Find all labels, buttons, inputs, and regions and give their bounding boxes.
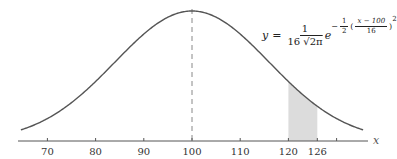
coef-numerator: 1 [300,24,310,36]
x-tick-label: 90 [137,146,150,157]
x-tick-label: 110 [231,146,250,157]
exp-z: x − 100 16 [355,18,387,35]
x-axis-label: x [373,134,380,147]
sqrt-content: 2π [310,36,323,47]
x-tick-label: 120 [279,146,298,157]
shaded-region-120-126 [288,81,317,141]
x-tick-label: 80 [89,146,102,157]
x-tick-label: 70 [41,146,54,157]
coef-den-16: 16 [287,36,300,47]
x-axis-tick-labels: 708090100110120126 [41,146,327,157]
exp-close-paren: ) [389,22,392,31]
formula-equals: = [272,29,281,42]
x-tick-label: 100 [182,146,201,157]
exp-open-paren: ( [350,22,353,31]
formula-exponent: − 1 2 ( x − 100 16 ) 2 [331,18,397,35]
half-num: 1 [340,18,348,27]
exp-half: 1 2 [340,18,348,35]
z-denominator: 16 [367,27,376,35]
coef-denominator: 16 √2π [287,36,322,47]
formula-y: y [262,29,268,42]
formula-coefficient: 1 16 √2π [287,24,322,47]
exp-power: 2 [392,15,396,23]
half-den: 2 [342,27,346,35]
z-numerator: x − 100 [355,18,387,27]
density-formula: y = 1 16 √2π e − 1 2 ( x − 100 16 ) 2 [262,24,397,47]
x-tick-label: 126 [308,146,327,157]
exp-sign: − [331,22,338,31]
